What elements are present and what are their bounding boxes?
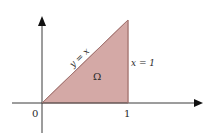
region-diagram: 0 1 x = 1 Ω y = x [0,0,215,137]
label-x-equals-1: x = 1 [131,58,155,68]
y-axis-arrow-icon [38,16,46,26]
x-tick-label-1: 1 [124,108,130,119]
label-omega: Ω [93,71,101,82]
origin-label: 0 [32,108,38,119]
x-axis-arrow-icon [194,99,203,107]
